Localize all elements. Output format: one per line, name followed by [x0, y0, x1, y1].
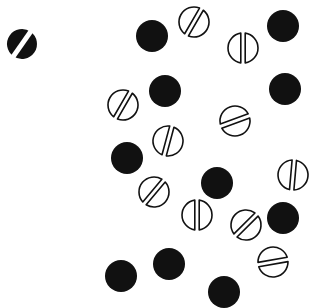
split-circle: [216, 102, 254, 140]
filled-circle: [208, 276, 240, 308]
filled-circle: [267, 202, 299, 234]
split-circle: [182, 200, 212, 230]
split-circle: [228, 33, 258, 63]
split-circle: [133, 171, 175, 213]
split-circle: [277, 159, 309, 191]
filled-circle: [267, 10, 299, 42]
dot-figure: [0, 0, 310, 308]
split-circle: [174, 2, 215, 43]
filled-circle: [136, 20, 168, 52]
split-circles-group: [103, 2, 310, 280]
split-circle: [150, 123, 187, 159]
filled-circles-group: [105, 10, 301, 308]
marked-circle-group: [1, 22, 44, 65]
split-circle: [225, 204, 267, 246]
split-circle: [103, 85, 144, 126]
slashed-filled-circle: [1, 22, 44, 65]
filled-circle: [105, 260, 137, 292]
filled-circle: [201, 167, 233, 199]
filled-circle: [149, 75, 181, 107]
filled-circle: [269, 73, 301, 105]
split-circle: [256, 245, 290, 280]
filled-circle: [153, 248, 185, 280]
filled-circle: [111, 142, 143, 174]
